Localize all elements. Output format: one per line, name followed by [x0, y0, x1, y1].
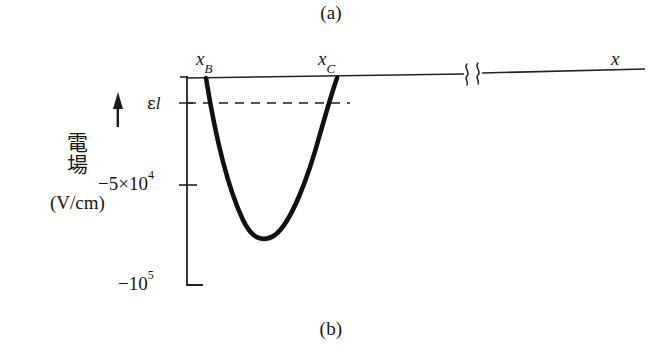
up-arrow-icon	[113, 92, 123, 127]
x-axis-name: x	[611, 48, 619, 70]
label-x-c: xC	[318, 48, 335, 74]
y-tick-5e4-mantissa: −5×10	[98, 173, 148, 194]
y-tick-1e5-exponent: 5	[148, 268, 154, 282]
y-tick-label-minus-5e4: −5×104	[98, 172, 154, 195]
epsilon-glyph: ε	[147, 93, 156, 113]
y-axis-units: (V/cm)	[50, 192, 105, 214]
x-axis-line-right	[482, 69, 645, 73]
y-tick-label-epsilon-l: εl	[147, 93, 161, 114]
epsilon-subscript-l: l	[156, 94, 161, 113]
label-x-c-subscript: C	[326, 61, 335, 76]
axis-break-icon	[466, 63, 479, 85]
y-axis-title-line-1: 電	[62, 132, 92, 154]
y-tick-5e4-exponent: 4	[148, 168, 154, 182]
y-tick-1e5-mantissa: −10	[118, 273, 148, 294]
field-profile-curve	[206, 78, 337, 239]
y-axis-units-text: (V/cm)	[50, 192, 105, 213]
label-x-b: xB	[196, 48, 212, 74]
figure-container: (a) xB xC x	[0, 0, 662, 352]
y-axis-line	[187, 76, 203, 285]
y-axis-title: 電 場	[62, 132, 92, 177]
y-axis-title-line-2: 場	[62, 154, 92, 176]
label-x-b-subscript: B	[204, 61, 212, 76]
y-tick-label-minus-1e5: −105	[118, 272, 154, 295]
caption-b: (b)	[0, 318, 662, 340]
